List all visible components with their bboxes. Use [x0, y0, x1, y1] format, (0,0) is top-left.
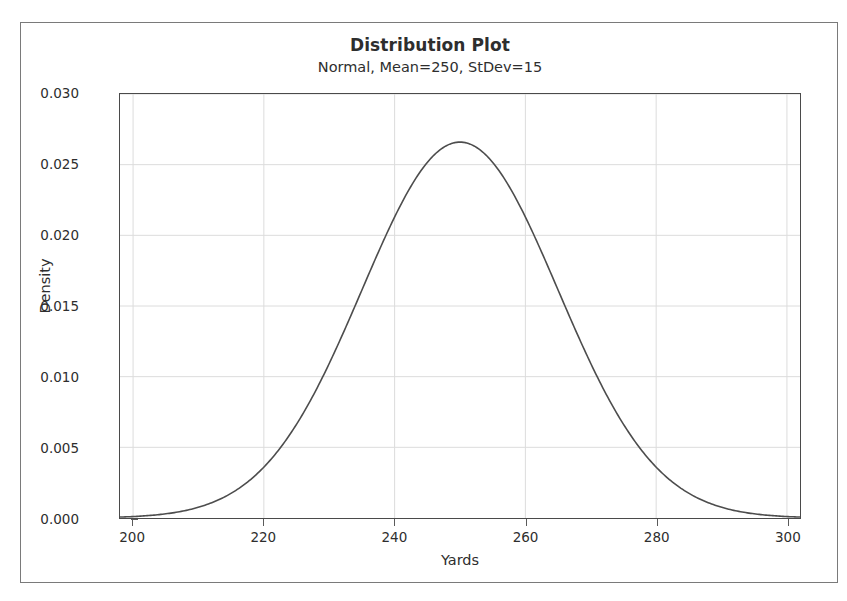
x-tick-mark — [657, 519, 658, 526]
density-curve — [120, 94, 800, 518]
x-tick-label: 200 — [119, 529, 145, 545]
x-tick-mark — [263, 519, 264, 526]
x-tick-mark — [788, 519, 789, 526]
screenshot-root: Distribution Plot Normal, Mean=250, StDe… — [0, 0, 847, 601]
x-tick-label: 220 — [250, 529, 276, 545]
figure-frame: Distribution Plot Normal, Mean=250, StDe… — [20, 22, 838, 583]
chart-title: Distribution Plot — [21, 35, 839, 55]
x-tick-mark — [526, 519, 527, 526]
x-tick-label: 300 — [775, 529, 801, 545]
x-tick-mark — [132, 519, 133, 526]
chart-subtitle: Normal, Mean=250, StDev=15 — [21, 59, 839, 75]
y-tick-label: 0.025 — [40, 156, 79, 172]
y-tick-label: 0.010 — [40, 369, 79, 385]
x-tick-label: 280 — [644, 529, 670, 545]
y-tick-label: 0.000 — [40, 511, 79, 527]
x-tick-mark — [394, 519, 395, 526]
plot-area — [119, 93, 801, 519]
x-tick-label: 240 — [382, 529, 408, 545]
x-axis-title: Yards — [119, 552, 801, 568]
y-tick-label: 0.005 — [40, 440, 79, 456]
x-tick-label: 260 — [513, 529, 539, 545]
y-tick-label: 0.030 — [40, 85, 79, 101]
y-axis-title: Density — [37, 226, 53, 346]
